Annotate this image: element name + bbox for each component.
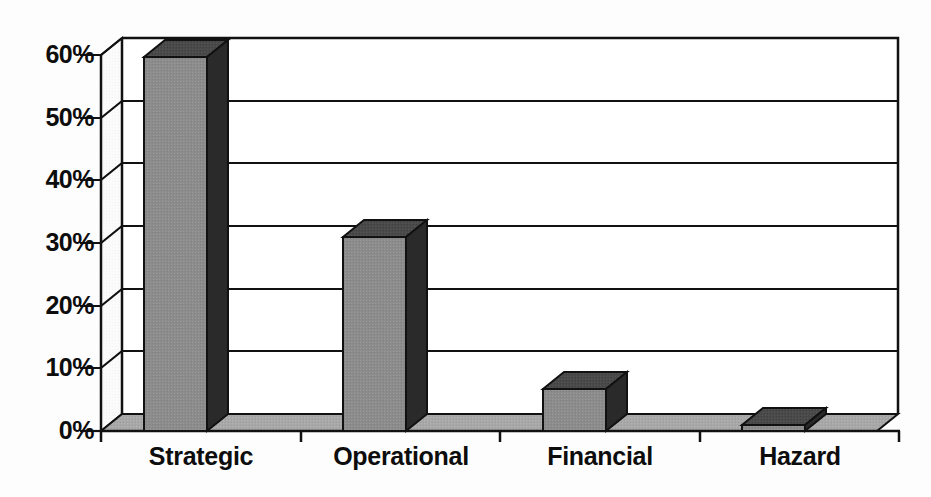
x-tick-label-financial: Financial [500,444,700,469]
x-tick-label-operational: Operational [301,444,501,469]
x-axis-labels: Strategic Operational Financial Hazard [0,0,931,497]
x-tick-label-hazard: Hazard [700,444,900,469]
x-tick-label-strategic: Strategic [101,444,301,469]
bar-chart: 60% 50% 40% 30% 20% 10% 0% Strategic Ope… [0,0,931,497]
